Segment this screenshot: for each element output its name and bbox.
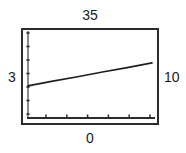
right-axis-value-label: 10 xyxy=(164,70,184,84)
left-axis-value-label: 3 xyxy=(5,70,19,84)
plot-frame-border xyxy=(21,28,159,125)
top-axis-value-label: 35 xyxy=(0,8,180,22)
chart-figure: 35 3 10 0 xyxy=(0,0,186,153)
bottom-axis-value-label: 0 xyxy=(0,131,180,145)
